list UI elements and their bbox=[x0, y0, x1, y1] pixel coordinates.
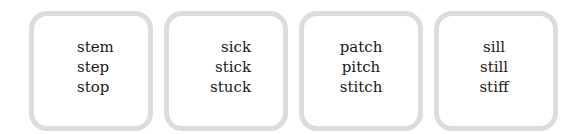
word: step bbox=[77, 57, 114, 77]
word-box-4: sill still stiff bbox=[434, 11, 558, 131]
word: stiff bbox=[439, 77, 549, 97]
word-list: sick stick stuck bbox=[210, 37, 251, 97]
word: stop bbox=[77, 77, 114, 97]
word-list: stem step stop bbox=[77, 37, 114, 97]
word: sill bbox=[439, 37, 549, 57]
word: patch bbox=[304, 37, 418, 57]
word: still bbox=[439, 57, 549, 77]
word-list: sill still stiff bbox=[439, 37, 549, 97]
word: stuck bbox=[210, 77, 251, 97]
word: stem bbox=[77, 37, 114, 57]
word: stick bbox=[210, 57, 251, 77]
word: sick bbox=[210, 37, 251, 57]
word-box-3: patch pitch stitch bbox=[299, 11, 423, 131]
word: pitch bbox=[304, 57, 418, 77]
word-box-1: stem step stop bbox=[29, 11, 153, 131]
word-list: patch pitch stitch bbox=[304, 37, 418, 97]
word-box-2: sick stick stuck bbox=[164, 11, 288, 131]
word: stitch bbox=[304, 77, 418, 97]
